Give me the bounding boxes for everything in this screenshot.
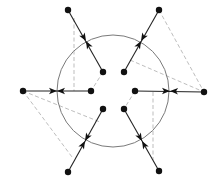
arrowhead-icon (85, 132, 92, 141)
inner-node (100, 69, 106, 75)
edge (124, 10, 159, 72)
edge (124, 109, 159, 171)
inner-node (100, 106, 106, 112)
arrowhead-icon (142, 141, 149, 150)
inner-node (88, 88, 94, 94)
directed-edges (23, 10, 204, 172)
outer-node (65, 7, 71, 13)
dashed-line (23, 91, 100, 122)
dashed-line (91, 72, 103, 91)
edge (68, 10, 103, 72)
graph-diagram (0, 0, 217, 186)
arrowhead-icon (141, 32, 148, 41)
arrowhead-icon (135, 132, 142, 141)
edge (68, 109, 103, 172)
inner-node (121, 106, 127, 112)
dashed-line (159, 10, 204, 92)
outer-node (156, 168, 162, 174)
inner-node (132, 88, 138, 94)
outer-node (20, 88, 26, 94)
edge (135, 88, 204, 95)
edge-line (124, 10, 159, 72)
arrowhead-icon (79, 32, 86, 41)
dashed-guide-lines (23, 10, 204, 160)
outer-node (156, 7, 162, 13)
outer-node (201, 89, 207, 95)
outer-node (65, 169, 71, 175)
edge-line (68, 10, 103, 72)
inner-node (121, 69, 127, 75)
